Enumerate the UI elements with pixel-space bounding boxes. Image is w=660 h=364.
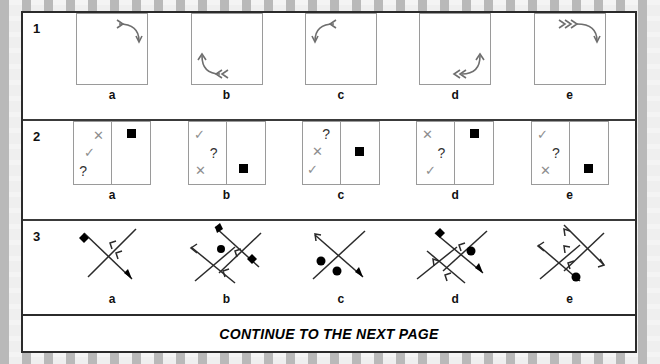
- option-label-1a: a: [109, 88, 116, 102]
- diamond-marker: [247, 254, 257, 264]
- question-row-3: 3 a: [23, 221, 635, 318]
- black-square: [355, 147, 364, 156]
- diamond-marker: [79, 233, 89, 243]
- mark-cross: ✕: [540, 164, 551, 177]
- option-2d[interactable]: ✕ ? ✓ d: [416, 121, 494, 202]
- option-label-2a: a: [109, 188, 116, 202]
- row-number-2: 2: [33, 129, 40, 144]
- figure-1a: [76, 13, 148, 85]
- question-row-1: 1 a: [23, 13, 635, 121]
- option-1a[interactable]: a: [76, 13, 148, 102]
- arrow-head: [475, 263, 483, 273]
- figure-2c: ? ✕ ✓: [302, 121, 380, 185]
- option-label-1b: b: [223, 88, 231, 102]
- cell-right-2a: [112, 122, 150, 184]
- row-number-1: 1: [33, 21, 40, 36]
- figure-3e: [528, 221, 612, 289]
- mark-question: ?: [210, 146, 218, 160]
- option-2e[interactable]: ✓ ? ✕ e: [531, 121, 609, 202]
- option-label-3e: e: [566, 292, 573, 306]
- mark-cross: ✕: [93, 129, 104, 142]
- row-3-options: a: [55, 221, 627, 318]
- circle-marker: [217, 245, 225, 253]
- continue-text: CONTINUE TO THE NEXT PAGE: [219, 326, 438, 342]
- circle-marker: [332, 267, 341, 276]
- question-row-2: 2 ✕ ✓ ? a ✓: [23, 121, 635, 221]
- arrow-head: [215, 223, 223, 233]
- mark-cross: ✕: [422, 128, 433, 141]
- test-page-sheet: 1 a: [21, 11, 637, 353]
- figure-1c: [305, 13, 377, 85]
- option-3e[interactable]: e: [528, 221, 612, 306]
- black-square: [470, 129, 479, 138]
- option-label-3d: d: [452, 292, 460, 306]
- footer-banner: CONTINUE TO THE NEXT PAGE: [23, 314, 635, 351]
- option-label-1e: e: [566, 88, 573, 102]
- figure-2e: ✓ ? ✕: [531, 121, 609, 185]
- figure-2d: ✕ ? ✓: [416, 121, 494, 185]
- option-label-2e: e: [566, 188, 573, 202]
- cell-left-2c: ? ✕ ✓: [303, 122, 341, 184]
- mark-question: ?: [322, 127, 330, 141]
- mark-check: ✓: [307, 163, 318, 176]
- mark-cross: ✕: [195, 164, 206, 177]
- circle-marker: [316, 257, 325, 266]
- figure-2a: ✕ ✓ ?: [73, 121, 151, 185]
- option-1e[interactable]: e: [534, 13, 606, 102]
- row-number-3: 3: [33, 229, 40, 244]
- figure-3c: [299, 221, 383, 289]
- option-1c[interactable]: c: [305, 13, 377, 102]
- option-label-3b: b: [223, 292, 231, 306]
- black-square: [584, 164, 593, 173]
- option-label-1d: d: [452, 88, 460, 102]
- mark-check: ✓: [194, 128, 205, 141]
- circle-marker: [571, 273, 580, 282]
- figure-3d: [413, 221, 497, 289]
- row-1-options: a b: [55, 13, 627, 119]
- figure-2b: ✓ ? ✕: [188, 121, 266, 185]
- option-label-1c: c: [338, 88, 345, 102]
- option-2c[interactable]: ? ✕ ✓ c: [302, 121, 380, 202]
- option-3c[interactable]: c: [299, 221, 383, 306]
- cell-right-2c: [341, 122, 379, 184]
- arrow-head: [124, 269, 132, 279]
- mark-check: ✓: [425, 164, 436, 177]
- mark-check: ✓: [537, 128, 548, 141]
- arrow-head: [355, 267, 363, 277]
- option-3a[interactable]: a: [70, 221, 154, 306]
- black-square: [127, 129, 136, 138]
- option-label-3a: a: [109, 292, 116, 306]
- figure-1b: [191, 13, 263, 85]
- mark-cross: ✕: [312, 145, 323, 158]
- option-2a[interactable]: ✕ ✓ ? a: [73, 121, 151, 202]
- option-label-2b: b: [223, 188, 231, 202]
- option-label-2c: c: [338, 188, 345, 202]
- cell-right-2d: [455, 122, 493, 184]
- mark-question: ?: [552, 146, 560, 160]
- option-2b[interactable]: ✓ ? ✕ b: [188, 121, 266, 202]
- figure-1e: [534, 13, 606, 85]
- cell-right-2b: [227, 122, 265, 184]
- option-label-2d: d: [452, 188, 460, 202]
- diamond-marker: [435, 228, 445, 238]
- option-1d[interactable]: d: [419, 13, 491, 102]
- circle-marker: [467, 247, 476, 256]
- mark-question: ?: [79, 164, 87, 178]
- row-2-options: ✕ ✓ ? a ✓ ? ✕: [55, 121, 627, 219]
- black-square: [239, 164, 248, 173]
- cell-left-2d: ✕ ? ✓: [417, 122, 455, 184]
- option-3b[interactable]: b: [185, 221, 269, 306]
- figure-1d: [419, 13, 491, 85]
- cell-left-2e: ✓ ? ✕: [532, 122, 570, 184]
- mark-question: ?: [438, 146, 446, 160]
- figure-3b: [185, 221, 269, 289]
- option-1b[interactable]: b: [191, 13, 263, 102]
- option-label-3c: c: [338, 292, 345, 306]
- cell-left-2a: ✕ ✓ ?: [74, 122, 112, 184]
- cell-right-2e: [570, 122, 608, 184]
- mark-check: ✓: [84, 146, 95, 159]
- cell-left-2b: ✓ ? ✕: [189, 122, 227, 184]
- figure-3a: [70, 221, 154, 289]
- option-3d[interactable]: d: [413, 221, 497, 306]
